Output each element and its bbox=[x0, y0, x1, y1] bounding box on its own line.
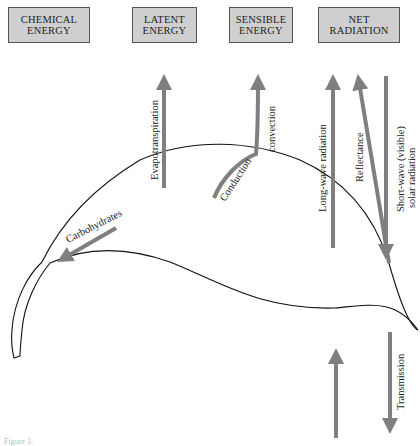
reflectance-label: Reflectance bbox=[354, 132, 365, 182]
solar-radiation-label: solar radiation bbox=[406, 147, 417, 208]
figure-caption: Figure 3. bbox=[4, 437, 33, 446]
convection-label: convection bbox=[266, 105, 277, 152]
evapotranspiration-label: Evapotranspiration bbox=[149, 99, 160, 180]
transmission-label: Transmission bbox=[395, 353, 406, 410]
leaf-energy-diagram: Evapotranspiration convection Conduction… bbox=[0, 0, 420, 446]
long-wave-radiation-label: Long-wave radiation bbox=[317, 123, 328, 212]
